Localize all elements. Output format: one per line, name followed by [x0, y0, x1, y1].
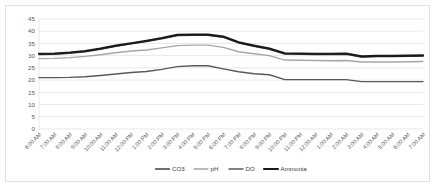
gridlines: 051015202530354045	[28, 15, 423, 132]
line-chart[interactable]: 0510152025303540456:00 AM7:00 AM8:00 AM9…	[6, 6, 429, 181]
y-axis-tick-label: 0	[32, 125, 36, 132]
y-axis-tick-label: 20	[28, 76, 35, 83]
y-axis-tick-label: 40	[28, 27, 35, 34]
y-axis-tick-label: 30	[28, 52, 35, 59]
y-axis-tick-label: 45	[28, 15, 35, 22]
series-line-ammonia[interactable]	[39, 35, 423, 57]
chart-canvas[interactable]: 0510152025303540456:00 AM7:00 AM8:00 AM9…	[6, 6, 429, 181]
y-axis-tick-label: 35	[28, 40, 35, 47]
series-line-ph[interactable]	[39, 45, 423, 62]
y-axis-tick-label: 10	[28, 101, 35, 108]
y-axis-tick-label: 5	[32, 113, 36, 120]
y-axis-tick-label: 25	[28, 64, 35, 71]
legend-label-ph[interactable]: pH	[211, 165, 219, 172]
x-axis-labels: 6:00 AM7:00 AM8:00 AM9:00 AM10:00 AM11:0…	[23, 131, 426, 152]
legend-label-co3[interactable]: CO3	[172, 165, 185, 172]
legend-label-ammonia[interactable]: Ammonia	[281, 165, 308, 172]
chart-card: 0510152025303540456:00 AM7:00 AM8:00 AM9…	[5, 5, 430, 182]
y-axis-tick-label: 15	[28, 89, 35, 96]
x-axis-tick-label: 7:00 AM	[407, 131, 426, 150]
series-group	[39, 35, 423, 82]
legend-label-do[interactable]: DO	[246, 165, 255, 172]
legend: CO3pHDOAmmonia	[156, 165, 308, 172]
